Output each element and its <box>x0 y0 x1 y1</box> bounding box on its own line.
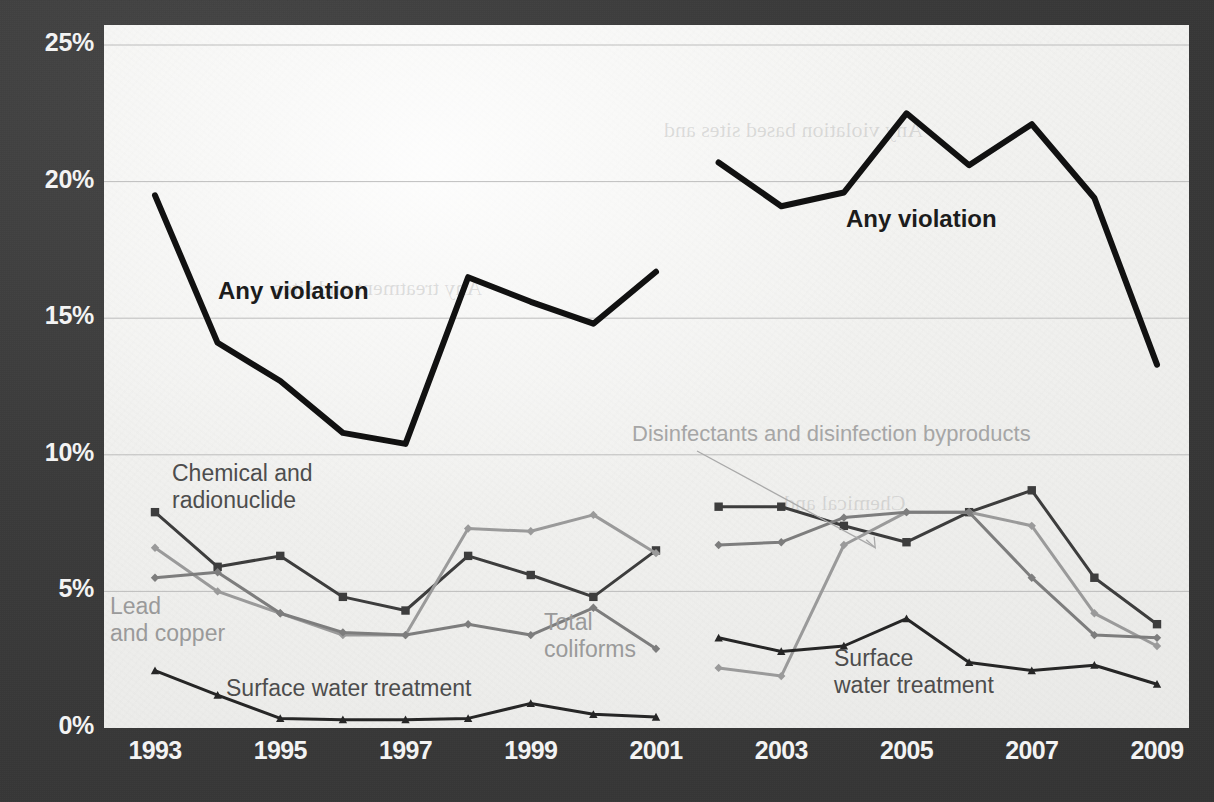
data-point-1-3 <box>902 538 910 546</box>
data-point-0-6 <box>527 631 535 639</box>
series-line-segment-0 <box>155 195 656 444</box>
data-point-0-3 <box>339 593 347 601</box>
data-point-1-7 <box>1153 620 1161 628</box>
y-axis-tick-20: 20% <box>0 165 94 194</box>
series-total-coliforms <box>151 508 1161 653</box>
data-point-0-7 <box>589 593 597 601</box>
annotation-lead-and-copper: Lead and copper <box>110 593 225 646</box>
x-axis-tick-1995: 1995 <box>235 736 325 765</box>
y-axis-tick-5: 5% <box>0 574 94 603</box>
x-axis-tick-1997: 1997 <box>361 736 451 765</box>
annotation-disinfectants: Disinfectants and disinfection byproduct… <box>632 421 1031 447</box>
series-lead-and-copper <box>151 508 1161 680</box>
annotation-surface-water-treatment-left: Surface water treatment <box>226 675 471 702</box>
data-point-0-6 <box>527 527 535 535</box>
data-point-1-7 <box>1153 634 1161 642</box>
data-point-1-0 <box>714 664 722 672</box>
data-point-0-0 <box>151 508 159 516</box>
x-axis-tick-1993: 1993 <box>110 736 200 765</box>
leader-line <box>697 451 875 548</box>
x-axis-tick-1999: 1999 <box>486 736 576 765</box>
data-point-1-5 <box>1028 486 1036 494</box>
annotation-any-violation-right: Any violation <box>846 205 997 233</box>
annotation-chemical-radionuclide: Chemical and radionuclide <box>172 460 313 513</box>
x-axis-tick-2009: 2009 <box>1112 736 1202 765</box>
data-point-0-5 <box>464 552 472 560</box>
annotation-surface-water-treatment-right: Surface water treatment <box>834 645 994 698</box>
figure-root: 25%20%15%10%5%0% 19931995199719992001200… <box>0 0 1214 802</box>
data-point-1-2 <box>840 513 848 521</box>
y-axis-tick-25: 25% <box>0 28 94 57</box>
x-axis-tick-2001: 2001 <box>611 736 701 765</box>
data-point-1-0 <box>714 503 722 511</box>
y-axis-tick-15: 15% <box>0 301 94 330</box>
disinfectants-leader-line <box>697 451 875 548</box>
leader-arrowhead-icon <box>866 537 875 548</box>
data-point-1-0 <box>714 541 722 549</box>
y-axis-tick-0: 0% <box>0 711 94 740</box>
plot-area: Any violation based sites and Any treatm… <box>104 25 1189 728</box>
annotation-any-violation-left: Any violation <box>218 277 369 305</box>
x-axis-tick-2003: 2003 <box>736 736 826 765</box>
y-axis-tick-10: 10% <box>0 438 94 467</box>
chart-svg <box>104 25 1189 728</box>
data-point-1-1 <box>777 503 785 511</box>
data-point-1-6 <box>1090 574 1098 582</box>
data-point-0-0 <box>151 574 159 582</box>
x-axis-tick-2005: 2005 <box>862 736 952 765</box>
data-point-0-5 <box>464 620 472 628</box>
series-surface-water-treatment <box>151 615 1161 724</box>
data-point-0-6 <box>527 571 535 579</box>
data-point-0-2 <box>276 552 284 560</box>
x-axis-tick-2007: 2007 <box>987 736 1077 765</box>
data-point-1-1 <box>777 538 785 546</box>
data-point-0-4 <box>401 606 409 614</box>
series-line-segment-1 <box>719 113 1157 364</box>
annotation-total-coliforms: Total coliforms <box>544 609 636 662</box>
